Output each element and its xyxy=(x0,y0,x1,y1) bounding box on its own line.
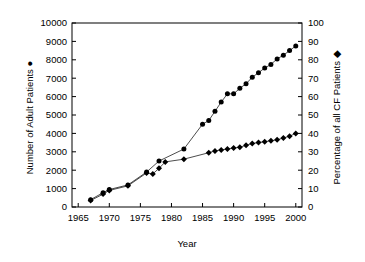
data-point-circle xyxy=(281,53,286,58)
data-point-diamond xyxy=(262,139,268,145)
data-point-circle xyxy=(206,118,211,123)
chart-canvas: 0100020003000400050006000700080009000100… xyxy=(0,0,365,262)
x-tick-label: 1985 xyxy=(192,212,213,223)
y-left-tick-marks xyxy=(72,23,76,207)
data-point-circle xyxy=(244,81,249,86)
y-right-tick-label: 20 xyxy=(308,165,319,176)
y-right-tick-label: 40 xyxy=(308,128,319,139)
data-point-circle xyxy=(231,91,236,96)
data-point-diamond xyxy=(287,133,293,139)
data-point-circle xyxy=(256,70,261,75)
y-left-axis-title-text: Number of Adult Patients xyxy=(24,69,35,174)
x-tick-label: 1995 xyxy=(254,212,275,223)
y-left-axis-title: Number of Adult Patients ● xyxy=(24,23,35,213)
x-axis-title-text: Year xyxy=(177,238,196,249)
series-percentage-of-all-cf-patients xyxy=(88,130,299,203)
y-right-tick-label: 80 xyxy=(308,54,319,65)
data-point-diamond xyxy=(212,148,218,154)
x-axis-title: Year xyxy=(72,238,302,249)
data-point-diamond xyxy=(274,137,280,143)
x-tick-labels: 19651970197519801985199019952000 xyxy=(68,212,307,223)
circle-marker-icon: ● xyxy=(24,61,35,67)
y-left-tick-label: 10000 xyxy=(41,17,67,28)
y-right-tick-label: 90 xyxy=(308,36,319,47)
y-right-tick-labels: 0102030405060708090100 xyxy=(308,17,324,212)
y-left-tick-label: 2000 xyxy=(46,165,67,176)
data-point-circle xyxy=(219,100,224,105)
data-point-diamond xyxy=(293,130,299,136)
data-point-circle xyxy=(157,159,162,164)
data-point-diamond xyxy=(231,145,237,151)
data-point-diamond xyxy=(181,156,187,162)
data-point-circle xyxy=(181,147,186,152)
data-point-diamond xyxy=(224,146,230,152)
data-point-diamond xyxy=(218,147,224,153)
data-point-circle xyxy=(293,44,298,49)
data-point-circle xyxy=(212,109,217,114)
x-tick-label: 1975 xyxy=(130,212,151,223)
data-point-diamond xyxy=(255,140,261,146)
y-left-tick-label: 6000 xyxy=(46,91,67,102)
y-right-tick-label: 60 xyxy=(308,91,319,102)
y-right-tick-label: 70 xyxy=(308,73,319,84)
y-right-tick-label: 30 xyxy=(308,146,319,157)
y-left-tick-label: 0 xyxy=(62,201,67,212)
y-left-tick-label: 7000 xyxy=(46,73,67,84)
data-point-diamond xyxy=(268,138,274,144)
data-point-circle xyxy=(262,66,267,71)
plot-frame xyxy=(72,23,302,207)
y-right-tick-marks xyxy=(298,23,302,207)
diamond-marker-icon: ◆ xyxy=(331,50,342,58)
y-right-tick-label: 100 xyxy=(308,17,324,28)
data-point-circle xyxy=(287,48,292,53)
data-point-diamond xyxy=(249,141,255,147)
data-point-circle xyxy=(225,91,230,96)
data-point-diamond xyxy=(280,135,286,141)
y-right-tick-label: 10 xyxy=(308,183,319,194)
x-tick-label: 1990 xyxy=(223,212,244,223)
data-point-diamond xyxy=(206,150,212,156)
data-point-circle xyxy=(275,56,280,61)
y-left-tick-label: 9000 xyxy=(46,36,67,47)
y-left-tick-label: 5000 xyxy=(46,109,67,120)
y-right-tick-label: 0 xyxy=(308,201,313,212)
chart-figure: 0100020003000400050006000700080009000100… xyxy=(0,0,365,262)
y-left-tick-label: 3000 xyxy=(46,146,67,157)
data-point-circle xyxy=(268,62,273,67)
y-right-tick-label: 50 xyxy=(308,109,319,120)
y-left-tick-label: 1000 xyxy=(46,183,67,194)
y-left-tick-label: 8000 xyxy=(46,54,67,65)
data-point-circle xyxy=(200,122,205,127)
x-tick-label: 2000 xyxy=(285,212,306,223)
x-tick-label: 1965 xyxy=(68,212,89,223)
y-left-tick-labels: 0100020003000400050006000700080009000100… xyxy=(41,17,67,212)
data-point-diamond xyxy=(243,142,249,148)
data-point-circle xyxy=(250,75,255,80)
y-left-tick-label: 4000 xyxy=(46,128,67,139)
y-right-axis-title-text: Percentage of all CF Patients xyxy=(331,61,342,185)
data-point-circle xyxy=(237,86,242,91)
x-tick-label: 1970 xyxy=(99,212,120,223)
series-number-of-adult-patients xyxy=(88,44,298,203)
x-tick-marks xyxy=(78,203,296,207)
data-point-diamond xyxy=(237,144,243,150)
y-right-axis-title: Percentage of all CF Patients ◆ xyxy=(331,23,342,213)
x-tick-label: 1980 xyxy=(161,212,182,223)
